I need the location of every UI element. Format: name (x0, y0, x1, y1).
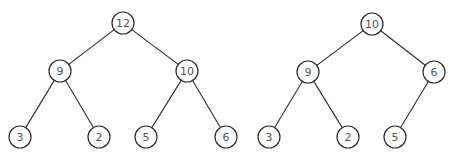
left-heap-node: 9 (49, 60, 71, 82)
node-label: 10 (365, 18, 379, 31)
right-heap-node: 3 (258, 126, 280, 148)
left-heap-node: 5 (135, 126, 157, 148)
right-heap-node: 6 (423, 61, 445, 83)
right-heap-node: 9 (297, 61, 319, 83)
node-label: 5 (143, 131, 150, 144)
tree-edge (132, 30, 178, 65)
heap-diagram: 1291032561096325 (0, 0, 454, 159)
left-heap-node: 3 (9, 126, 31, 148)
tree-edge (26, 80, 55, 127)
tree-edge (381, 31, 426, 66)
tree-edge (275, 81, 303, 127)
node-label: 6 (431, 66, 438, 79)
node-label: 6 (223, 131, 230, 144)
tree-edge (317, 31, 363, 66)
left-heap-node: 10 (176, 60, 198, 82)
tree-edge (401, 81, 429, 127)
right-heap-node: 2 (337, 126, 359, 148)
node-label: 9 (305, 66, 312, 79)
tree-edge (193, 80, 221, 127)
node-label: 12 (116, 17, 130, 30)
tree-edge (152, 80, 181, 127)
node-label: 5 (392, 131, 399, 144)
node-label: 2 (345, 131, 352, 144)
right-heap-node: 5 (384, 126, 406, 148)
tree-edge (69, 30, 115, 65)
node-label: 2 (96, 131, 103, 144)
left-heap-node: 12 (112, 12, 134, 34)
tree-edges (26, 30, 429, 128)
node-label: 3 (266, 131, 273, 144)
node-label: 9 (57, 65, 64, 78)
node-label: 10 (180, 65, 194, 78)
tree-edge (314, 81, 342, 127)
tree-edge (66, 80, 94, 127)
tree-nodes: 1291032561096325 (9, 12, 445, 148)
left-heap-node: 2 (88, 126, 110, 148)
left-heap-node: 6 (215, 126, 237, 148)
node-label: 3 (17, 131, 24, 144)
right-heap-node: 10 (361, 13, 383, 35)
